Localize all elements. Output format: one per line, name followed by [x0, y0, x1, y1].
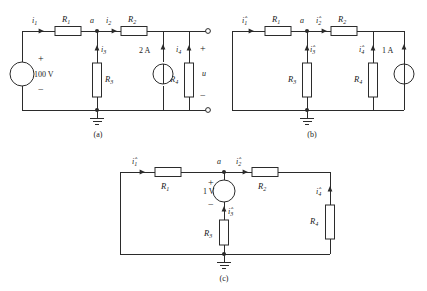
current-source-a-value: 2 A	[139, 46, 151, 55]
resistor-c-r3-label: R3	[203, 228, 212, 239]
circuit-a: R1 R2 R3 R4 + 100 V − 2 A i1 i2 i3 i4	[10, 14, 210, 139]
resistor-c-r4	[326, 205, 335, 239]
node-b-label: a	[300, 16, 304, 25]
node-a-label: a	[90, 16, 94, 25]
current-source-b-value: 1 A	[382, 46, 394, 55]
current-source-a-arrow-icon	[161, 44, 166, 49]
current-c-i4-label: ˆi4	[316, 187, 321, 197]
voltage-source-a-plus: +	[38, 53, 44, 64]
resistor-b-r4	[369, 63, 378, 97]
resistor-c-r1-label: R1	[160, 181, 169, 192]
current-arrow-c-i2-icon	[243, 170, 248, 175]
current-a-i4-label: i4	[176, 45, 181, 55]
current-arrow-c-i4-icon	[328, 186, 333, 191]
current-arrow-a-i3-icon	[95, 45, 100, 50]
ground-a-icon	[90, 110, 104, 124]
terminal-a-bottom	[206, 108, 211, 113]
terminal-a-top	[206, 29, 211, 34]
resistor-a-r2-label: R2	[127, 14, 136, 25]
resistor-c-r4-label: R4	[309, 216, 318, 227]
resistor-c-r2	[252, 168, 278, 177]
caption-c: (c)	[220, 274, 229, 283]
current-a-i3-label: i3	[101, 45, 106, 55]
current-arrow-b-i3-icon	[305, 45, 310, 50]
resistor-c-r2-label: R2	[257, 181, 266, 192]
resistor-a-r3	[93, 63, 102, 97]
current-b-i1-label: ˆi1	[242, 16, 247, 26]
current-arrow-b-i4-icon	[371, 45, 376, 50]
resistor-b-r1-label: R1	[271, 14, 280, 25]
circuit-canvas: R1 R2 R3 R4 + 100 V − 2 A i1 i2 i3 i4	[0, 0, 427, 291]
current-arrow-c-i3-icon	[222, 206, 227, 211]
resistor-c-r1	[155, 168, 181, 177]
current-a-i2-label: i2	[106, 16, 111, 26]
current-arrow-a-i4-icon	[187, 45, 192, 50]
resistor-a-r1	[55, 27, 81, 36]
node-c-label: a	[217, 157, 221, 166]
node-c-dot	[222, 170, 226, 174]
current-b-i2-label: ˆi2	[316, 16, 321, 26]
current-b-i4-label: ˆi4	[359, 45, 364, 55]
resistor-c-r3	[220, 220, 229, 245]
figure-root: R1 R2 R3 R4 + 100 V − 2 A i1 i2 i3 i4	[0, 0, 427, 291]
output-a-plus: +	[200, 43, 206, 54]
current-c-i2-label: ˆi2	[236, 157, 241, 167]
voltage-source-a-minus: −	[38, 84, 44, 95]
current-c-i1-label: ˆi1	[132, 157, 137, 167]
caption-a: (a)	[94, 130, 103, 139]
current-a-i1-label: i1	[32, 16, 37, 26]
current-arrow-a-i1-icon	[39, 29, 44, 34]
circuit-b: R1 R2 R3 R4 1 A ˆi1 ˆi2 ˆi3 ˆi4 a	[232, 14, 414, 139]
voltage-source-a	[10, 62, 34, 86]
caption-b: (b)	[307, 130, 317, 139]
current-arrow-a-i2-icon	[112, 29, 117, 34]
resistor-a-r3-label: R3	[104, 74, 113, 85]
voltage-source-c-minus: −	[208, 199, 214, 210]
resistor-b-r3-label: R3	[287, 74, 296, 85]
current-arrow-b-i2-icon	[322, 29, 327, 34]
circuit-c: R1 R2 R3 R4 + 1 V − ˆi1 ˆi2 ˆi3 ˆi4 a	[120, 157, 335, 283]
current-source-b-arrow-icon	[402, 44, 407, 49]
resistor-b-r4-label: R4	[353, 74, 362, 85]
resistor-b-r2-label: R2	[337, 14, 346, 25]
ground-b-icon	[300, 110, 314, 124]
current-b-i3-label: ˆi3	[310, 45, 315, 55]
voltage-source-c-value: 1 V	[203, 187, 215, 196]
output-a-voltage-label: u	[202, 69, 206, 78]
ground-c-icon	[217, 254, 231, 268]
current-arrow-b-i1-icon	[249, 29, 254, 34]
resistor-b-r2	[331, 27, 357, 36]
node-b-dot	[305, 29, 309, 33]
output-a-minus: −	[200, 90, 206, 101]
resistor-b-r3	[303, 63, 312, 97]
current-arrow-c-i1-icon	[140, 170, 145, 175]
voltage-source-c	[213, 180, 235, 202]
node-a-dot	[95, 29, 99, 33]
resistor-a-r2	[121, 27, 147, 36]
resistor-a-r1-label: R1	[61, 14, 70, 25]
resistor-a-r4	[185, 63, 194, 97]
resistor-b-r1	[265, 27, 291, 36]
current-c-i3-label: ˆi3	[228, 207, 233, 217]
voltage-source-a-value: 100 V	[34, 70, 54, 79]
